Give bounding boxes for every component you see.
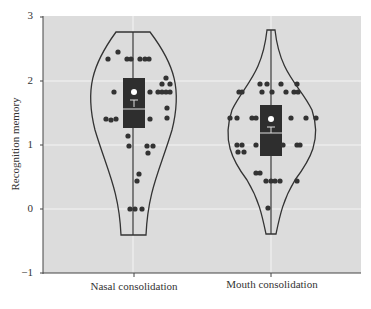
y-tick: 2 [13, 74, 33, 86]
y-tick: −1 [13, 266, 33, 278]
x-label-nasal: Nasal consolidation [84, 280, 184, 292]
y-tick: 3 [13, 9, 33, 21]
chart: 3 2 1 0 −1 Recognition memory Nasal cons… [0, 0, 371, 309]
plot [0, 0, 371, 309]
y-tick: 0 [13, 202, 33, 214]
y-axis-label: Recognition memory [9, 89, 21, 199]
x-label-mouth: Mouth consolidation [222, 278, 322, 290]
